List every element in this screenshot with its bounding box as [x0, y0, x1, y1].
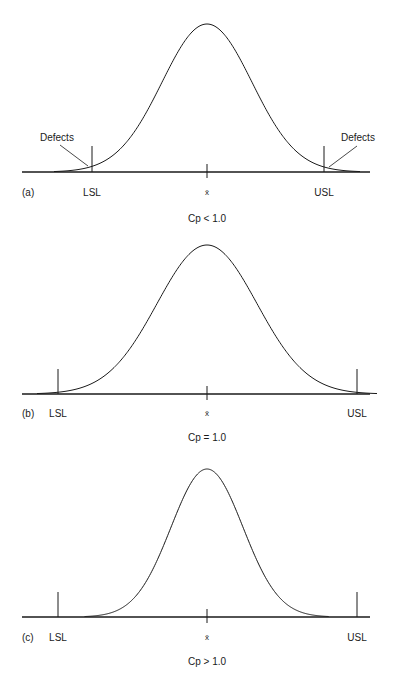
process-capability-figure: Defects Defects (a) LSL USL x̄ Cp < 1.0 …: [0, 0, 394, 682]
panel-c: (c) LSL USL x̄ Cp > 1.0: [22, 469, 370, 667]
mean-label: x̄: [205, 409, 209, 418]
defects-label-right: Defects: [341, 132, 375, 143]
lsl-label: LSL: [49, 632, 67, 643]
usl-label: USL: [314, 187, 334, 198]
normal-curve: [37, 245, 377, 394]
cp-caption: Cp < 1.0: [188, 213, 227, 224]
panel-label: (b): [22, 408, 34, 419]
mean-label: x̄: [205, 633, 209, 642]
panel-label: (a): [22, 187, 34, 198]
panel-label: (c): [22, 632, 34, 643]
lsl-label: LSL: [83, 187, 101, 198]
normal-curve: [54, 24, 360, 172]
lsl-label: LSL: [49, 408, 67, 419]
defects-label-left: Defects: [40, 132, 74, 143]
cp-caption: Cp > 1.0: [188, 656, 227, 667]
panel-a: Defects Defects (a) LSL USL x̄ Cp < 1.0: [22, 24, 375, 224]
usl-label: USL: [347, 632, 367, 643]
normal-curve: [85, 469, 329, 617]
usl-label: USL: [347, 408, 367, 419]
panel-b: (b) LSL USL x̄ Cp = 1.0: [22, 245, 377, 443]
cp-caption: Cp = 1.0: [188, 432, 227, 443]
defects-leader-right: [329, 146, 357, 167]
defects-leader-left: [60, 145, 88, 166]
mean-label: x̄: [205, 188, 209, 197]
